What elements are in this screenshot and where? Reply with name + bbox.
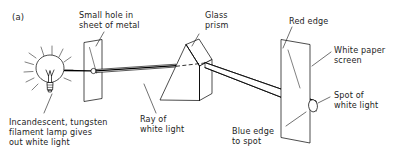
leader-ray-of-white-light xyxy=(144,84,156,113)
red-edge-label: Red edge xyxy=(289,16,328,26)
spot-of-white-light-label: Spot of white light xyxy=(334,90,378,110)
panel-id-label: (a) xyxy=(12,12,24,22)
leader-lamp-caption xyxy=(44,94,52,113)
white-paper-screen xyxy=(281,40,310,144)
prism-dispersion-figure: (a) Small hole in sheet of metal Glass p… xyxy=(0,0,393,161)
ray-of-white-light-beam xyxy=(96,64,176,72)
ray-of-white-light-label: Ray of white light xyxy=(140,114,184,134)
white-paper-screen-label: White paper screen xyxy=(334,45,385,65)
glass-prism-label: Glass prism xyxy=(205,10,229,30)
leader-spot-of-white-light xyxy=(318,97,330,103)
lamp-bulb xyxy=(36,55,64,92)
small-hole-label: Small hole in sheet of metal xyxy=(79,10,140,30)
glass-prism xyxy=(160,39,212,101)
leader-white-paper-screen xyxy=(312,52,331,66)
lamp-caption-label: Incandescent, tungsten filament lamp giv… xyxy=(9,117,108,148)
small-hole-aperture xyxy=(91,68,96,73)
blue-edge-label: Blue edge to spot xyxy=(232,126,274,146)
